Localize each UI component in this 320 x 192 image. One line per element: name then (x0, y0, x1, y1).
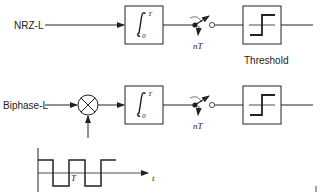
sampler-switch-1: nT (190, 16, 215, 51)
integrator-block-1: T 0 (125, 6, 163, 44)
biphase-l-input-label: Biphase-L (3, 100, 48, 111)
integrator-lower-limit: 0 (142, 32, 146, 40)
integrator-upper-limit: T (148, 10, 153, 18)
row-nrz-l: NRZ-L T 0 nT Threshold (14, 6, 313, 66)
sampler-label: nT (193, 41, 204, 51)
switch-contact-icon (209, 22, 214, 27)
sampler-switch-2: nT (190, 96, 215, 131)
correlator-receiver-diagram: NRZ-L T 0 nT Threshold Biphase-L (0, 0, 320, 192)
threshold-label: Threshold (244, 55, 288, 66)
threshold-block-1 (243, 6, 281, 44)
nrz-l-input-label: NRZ-L (14, 20, 44, 31)
multiplier (78, 95, 98, 115)
integrator-upper-limit: T (148, 90, 153, 98)
reference-square-wave: T t (38, 148, 155, 192)
period-label: T (71, 173, 77, 183)
row-biphase-l: Biphase-L T 0 nT (3, 86, 313, 138)
sampler-label: nT (193, 121, 204, 131)
integrator-lower-limit: 0 (142, 112, 146, 120)
time-axis-label: t (152, 173, 155, 183)
threshold-block-2 (243, 86, 281, 124)
integrator-block-2: T 0 (125, 86, 163, 124)
switch-contact-icon (209, 102, 214, 107)
